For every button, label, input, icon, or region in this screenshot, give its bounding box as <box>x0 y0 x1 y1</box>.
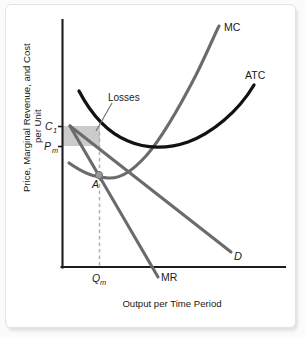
figure-frame: MC ATC MR D Losses A C 1 P m Q m Price, … <box>0 0 305 338</box>
mc-curve-label: MC <box>224 21 241 33</box>
x-tick-label-qm-base: Q <box>92 272 100 284</box>
marginal-cost-curve <box>69 26 219 178</box>
demand-curve-label: D <box>234 250 242 262</box>
x-tick-label-qm: Q m <box>92 272 106 287</box>
y-tick-label-c1-base: C <box>45 120 53 132</box>
y-tick-label-pm-sub: m <box>52 146 58 155</box>
y-tick-label-c1: C 1 <box>45 120 57 135</box>
monopoly-losses-chart: MC ATC MR D Losses A C 1 P m Q m Price, … <box>0 0 305 338</box>
mr-curve-label: MR <box>161 271 178 283</box>
average-total-cost-curve <box>79 85 254 147</box>
y-tick-label-c1-sub: 1 <box>53 126 57 135</box>
x-axis-title: Output per Time Period <box>122 298 221 309</box>
losses-label: Losses <box>108 92 140 103</box>
y-tick-label-pm: P m <box>44 140 58 155</box>
atc-curve-label: ATC <box>245 69 266 81</box>
marginal-revenue-curve <box>70 126 158 277</box>
point-a-label: A <box>91 178 99 190</box>
y-tick-label-pm-base: P <box>44 140 51 152</box>
x-tick-label-qm-sub: m <box>100 278 106 287</box>
y-axis-title-line1: Price, Marginal Revenue, and Cost <box>21 43 32 192</box>
y-axis-title-line2: per Unit <box>32 109 43 143</box>
